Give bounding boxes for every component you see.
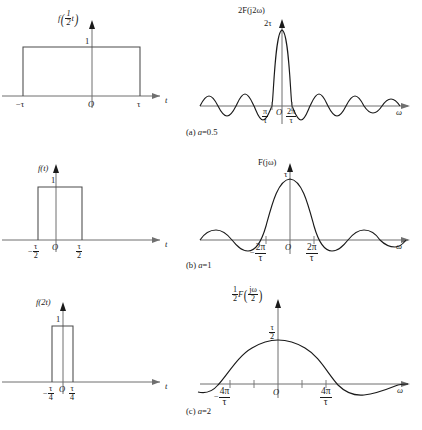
panel-c-time-ylabel: f(2t) (36, 298, 51, 307)
panel-b-freq-peak-label: τ (284, 170, 287, 179)
panel-b-time-ylabel: f(t) (38, 164, 48, 173)
panel-c-time-xlabel: t (165, 382, 167, 391)
panel-a-freq-xtick-right: 2πτ (286, 108, 296, 126)
panel-c-time-xtick-left: −τ4 (43, 385, 54, 403)
panel-b-time-xtick-left: −τ2 (28, 243, 39, 261)
panel-a-time-origin: O (88, 100, 94, 109)
panel-a-freq-ylabel: 2F(j2ω) (238, 6, 265, 15)
panel-c-time-peak-label: 1 (56, 315, 60, 324)
panel-a-time: f(12t) 1 t −τ O τ (0, 8, 205, 120)
y-axis-arrow-a-time (89, 20, 95, 29)
panel-a-time-xtick-left: −τ (16, 100, 24, 109)
panel-b-time-xtick-right: τ2 (76, 243, 82, 261)
panel-a-freq-plot (200, 2, 422, 130)
panel-c-time-origin: O (59, 385, 65, 394)
panel-c-time: f(2t) 1 t −τ4 O τ4 (0, 292, 205, 412)
panel-a-caption: (a) a=0.5 (186, 127, 218, 137)
x-axis-arrow-b-time (152, 237, 160, 243)
x-axis-arrow-a-freq (401, 103, 410, 109)
x-axis-arrow-a-time (152, 93, 160, 99)
panel-b-freq-xlabel: ω (396, 242, 402, 251)
panel-a-time-ylabel: f(12t) (58, 10, 79, 28)
y-axis-arrow-b-freq (287, 163, 293, 172)
y-axis-arrow-c-time (60, 302, 66, 311)
panel-a-time-plot (0, 8, 205, 120)
panel-b-freq-origin: O (285, 243, 291, 252)
y-axis-arrow-b-time (53, 164, 59, 173)
panel-a-freq-xlabel: ω (396, 108, 402, 117)
panel-b-time: f(t) 1 t −τ2 O τ2 (0, 152, 205, 262)
panel-b-freq-xtick-right: 2πτ (306, 243, 318, 263)
y-axis-arrow-a-freq (279, 19, 285, 28)
cropped-header-text (2, 0, 5, 6)
panel-b-time-xlabel: t (165, 240, 167, 249)
panel-c-freq-ylabel: 12F(jω2) (232, 286, 263, 304)
panel-a-time-peak-label: 1 (85, 37, 89, 46)
panel-c-freq: 12F(jω2) τ2 ω −4πτ O 4πτ (c) a=2 (200, 282, 422, 430)
x-axis-arrow-c-time (152, 379, 160, 385)
panel-b-freq-xtick-left: −2πτ (250, 243, 266, 263)
panel-b-freq: F(jω) τ ω −2πτ O 2πτ (b) a=1 (200, 152, 422, 272)
panel-a-freq-peak-label: 2τ (264, 19, 272, 28)
panel-c-freq-peak-label: τ2 (269, 324, 275, 342)
panel-b-time-origin: O (52, 243, 58, 252)
y-axis-arrow-c-freq (275, 299, 281, 308)
panel-b-freq-ylabel: F(jω) (258, 158, 276, 167)
panel-c-caption: (c) a=2 (186, 406, 211, 416)
panel-a-time-xlabel: t (165, 96, 167, 105)
panel-c-time-plot (0, 292, 205, 412)
panel-c-freq-origin: O (273, 388, 279, 397)
panel-b-caption: (b) a=1 (186, 260, 212, 270)
panel-c-freq-xtick-right: 4πτ (320, 387, 332, 407)
panel-a-time-xtick-right: τ (137, 100, 140, 109)
panel-b-time-peak-label: 1 (51, 176, 55, 185)
panel-c-time-xtick-right: τ4 (69, 385, 75, 403)
figure-container: f(12t) 1 t −τ O τ 2F(j2ω) 2τ ω πτ O 2πτ (0, 0, 422, 430)
panel-c-freq-xtick-left: −4πτ (214, 387, 230, 407)
panel-a-freq-origin: O (276, 108, 282, 117)
panel-c-freq-xlabel: ω (397, 386, 403, 395)
panel-a-freq-xtick-left: πτ (262, 108, 268, 126)
panel-a-freq: 2F(j2ω) 2τ ω πτ O 2πτ (a) a=0.5 (200, 2, 422, 142)
